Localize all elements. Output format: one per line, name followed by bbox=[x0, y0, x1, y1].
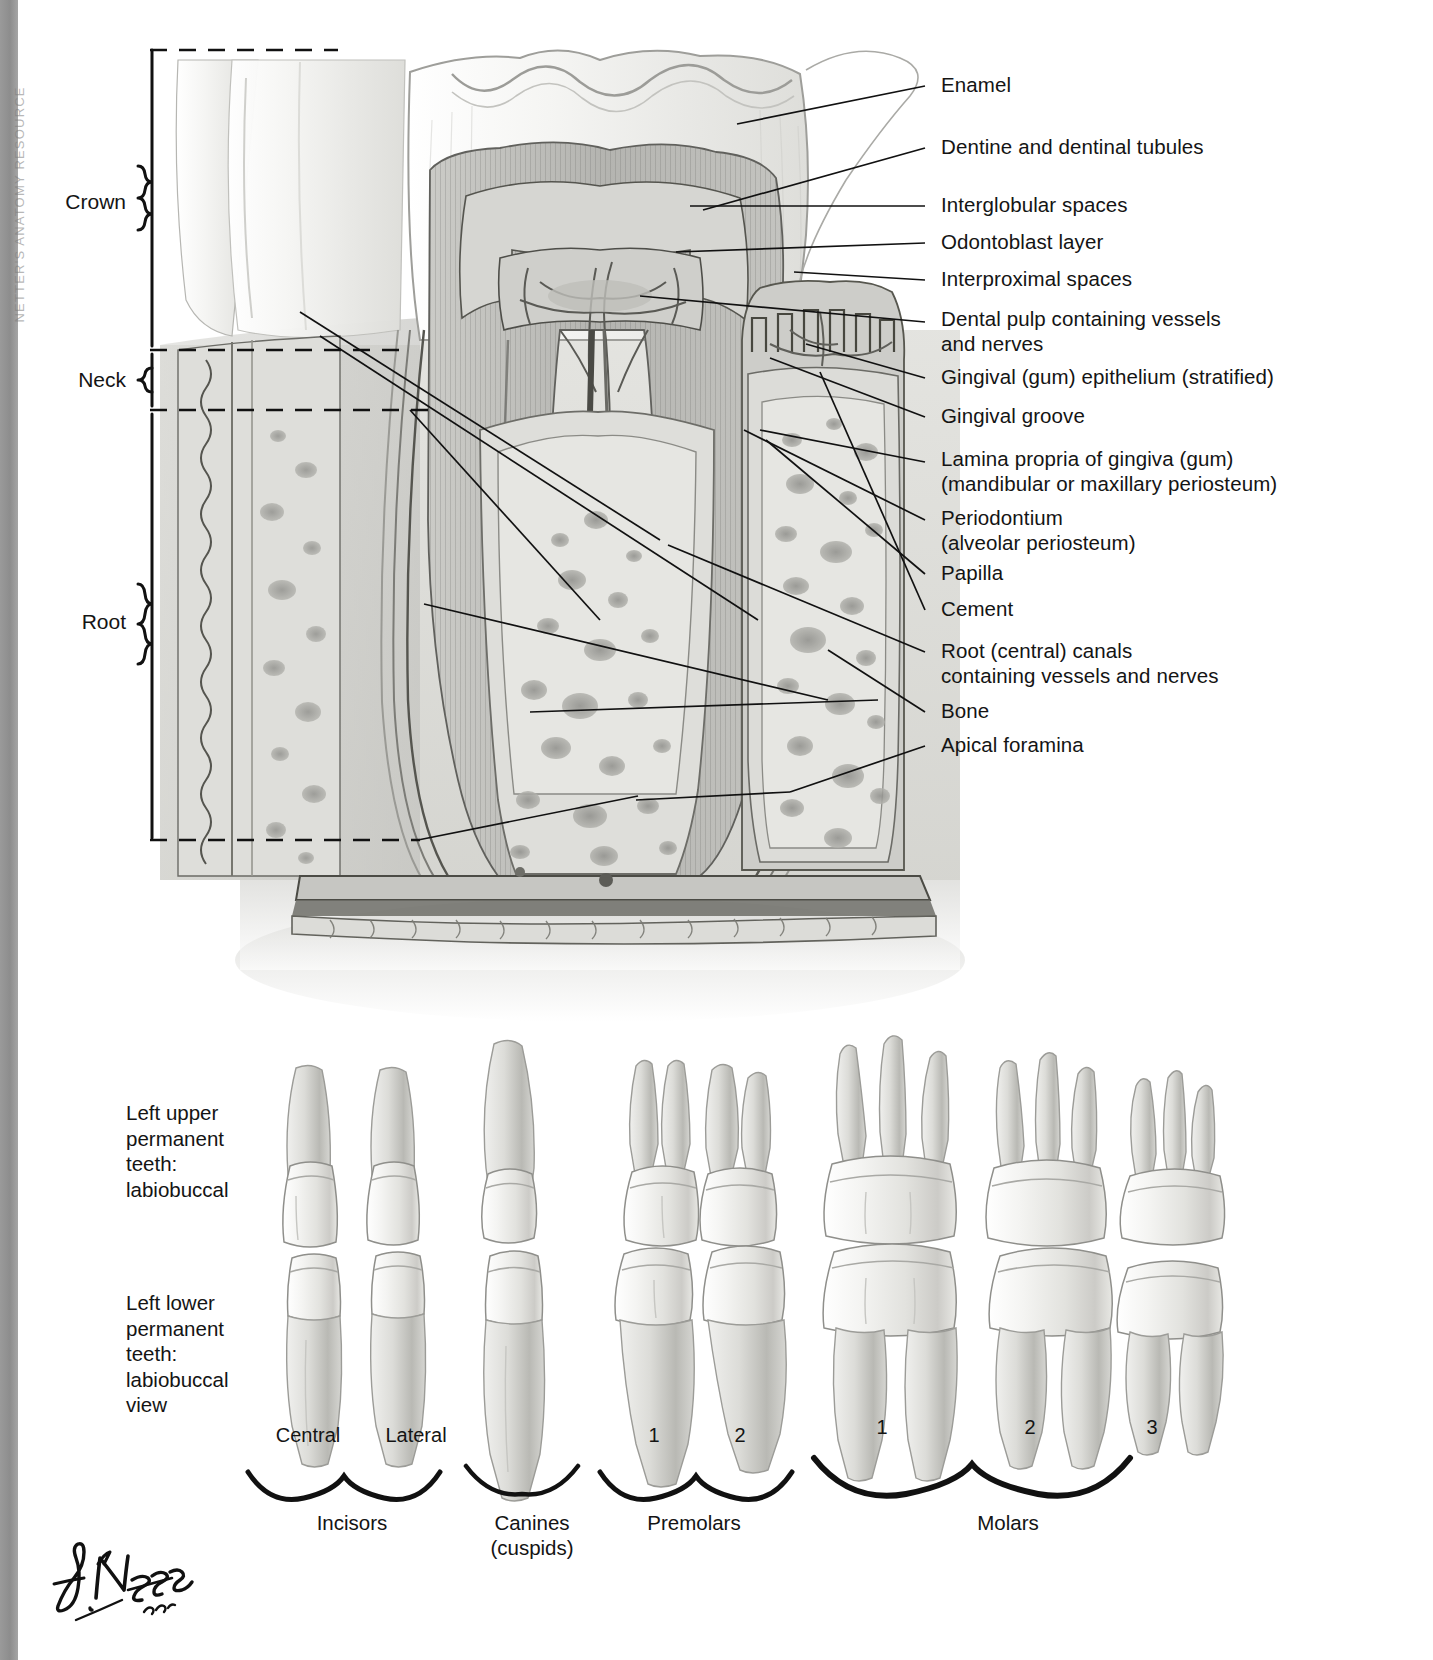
tooth-upper-molar-1 bbox=[824, 1036, 956, 1244]
margin-bar-title: NETTER'S ANATOMY RESOURCE bbox=[12, 93, 27, 323]
leader-cross-4 bbox=[424, 604, 828, 700]
artist-signature: F. Netter M.D. bbox=[48, 1528, 198, 1624]
brace-molars bbox=[814, 1458, 1130, 1496]
region-label-neck: Neck bbox=[30, 368, 126, 392]
label-periodontium: Periodontium (alveolar periosteum) bbox=[941, 505, 1136, 555]
tooth-upper-lateral-incisor bbox=[367, 1067, 419, 1245]
tooth-lower-premolar-1 bbox=[615, 1248, 694, 1487]
sublabel-incisor-central: Central bbox=[248, 1424, 368, 1447]
sublabel-premolar-2: 2 bbox=[710, 1424, 770, 1447]
group-label-molars: Molars bbox=[908, 1510, 1108, 1535]
leader-cross-7 bbox=[636, 792, 790, 800]
sublabel-incisor-lateral: Lateral bbox=[356, 1424, 476, 1447]
leader-gingival-epithelium bbox=[806, 344, 925, 378]
sublabel-premolar-1: 1 bbox=[624, 1424, 684, 1447]
label-gingival-epithelium: Gingival (gum) epithelium (stratified) bbox=[941, 364, 1274, 389]
label-dentine: Dentine and dentinal tubules bbox=[941, 134, 1204, 159]
leader-periodontium bbox=[744, 430, 925, 520]
tooth-upper-canine bbox=[482, 1040, 537, 1243]
label-interglobular-spaces: Interglobular spaces bbox=[941, 192, 1128, 217]
label-interproximal-spaces: Interproximal spaces bbox=[941, 266, 1132, 291]
brace-canines bbox=[466, 1466, 578, 1494]
group-label-canines: Canines (cuspids) bbox=[452, 1510, 612, 1560]
leader-dentine bbox=[703, 148, 925, 210]
leader-cross-2 bbox=[320, 336, 758, 620]
region-label-crown: Crown bbox=[30, 190, 126, 214]
label-lamina-propria: Lamina propria of gingiva (gum) (mandibu… bbox=[941, 446, 1277, 496]
leader-lamina-propria bbox=[760, 430, 925, 462]
leader-cement bbox=[820, 372, 925, 610]
label-dental-pulp: Dental pulp containing vessels and nerve… bbox=[941, 306, 1221, 356]
label-odontoblast-layer: Odontoblast layer bbox=[941, 229, 1103, 254]
leader-apical-foramina bbox=[790, 746, 925, 792]
anatomy-plate: NETTER'S ANATOMY RESOURCE bbox=[0, 0, 1433, 1660]
brace-premolars bbox=[600, 1472, 792, 1500]
tooth-upper-premolar-2 bbox=[700, 1064, 777, 1246]
label-apical-foramina: Apical foramina bbox=[941, 732, 1084, 757]
tooth-upper-premolar-1 bbox=[624, 1060, 699, 1246]
label-bone: Bone bbox=[941, 698, 989, 723]
sublabel-molar-2: 2 bbox=[1000, 1416, 1060, 1439]
region-label-root: Root bbox=[30, 610, 126, 634]
tooth-lower-molar-1 bbox=[823, 1244, 957, 1481]
leader-odontoblast bbox=[676, 243, 925, 252]
leader-papilla bbox=[766, 440, 925, 574]
leader-cross-1 bbox=[300, 312, 660, 540]
label-cement: Cement bbox=[941, 596, 1013, 621]
label-root-canals: Root (central) canals containing vessels… bbox=[941, 638, 1219, 688]
group-label-premolars: Premolars bbox=[604, 1510, 784, 1535]
leader-cross-5 bbox=[530, 700, 878, 712]
leader-root-canals bbox=[668, 545, 925, 652]
leader-bone bbox=[828, 650, 925, 712]
leader-gingival-groove bbox=[770, 358, 925, 417]
label-gingival-groove: Gingival groove bbox=[941, 403, 1085, 428]
label-enamel: Enamel bbox=[941, 72, 1011, 97]
label-papilla: Papilla bbox=[941, 560, 1003, 585]
sublabel-molar-1: 1 bbox=[852, 1416, 912, 1439]
leader-interproximal bbox=[794, 272, 925, 280]
leader-dental-pulp bbox=[640, 296, 925, 322]
leader-cross-3 bbox=[410, 410, 600, 620]
tooth-upper-molar-2 bbox=[986, 1053, 1106, 1246]
caption-lower-row: Left lower permanent teeth: labiobuccal … bbox=[126, 1290, 316, 1418]
tooth-upper-molar-3 bbox=[1120, 1071, 1224, 1245]
group-label-incisors: Incisors bbox=[262, 1510, 442, 1535]
leader-cross-6 bbox=[418, 796, 638, 840]
tooth-lower-canine bbox=[484, 1251, 545, 1501]
sublabel-molar-3: 3 bbox=[1122, 1416, 1182, 1439]
leader-enamel bbox=[737, 86, 925, 124]
caption-upper-row: Left upper permanent teeth: labiobuccal bbox=[126, 1100, 316, 1202]
brace-incisors bbox=[248, 1472, 440, 1500]
